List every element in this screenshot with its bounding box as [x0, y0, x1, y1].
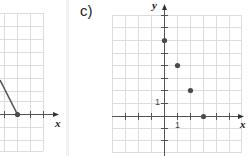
right-x-axis-label: x: [240, 118, 246, 130]
left-graph-panel: x: [0, 0, 66, 156]
left-point: [15, 112, 20, 117]
point-1-4: [175, 63, 180, 68]
left-x-axis-label: x: [55, 117, 61, 129]
left-grid: [0, 13, 44, 152]
right-grid: [112, 15, 242, 153]
right-graph-panel: c): [69, 0, 248, 156]
right-x-axis: [112, 113, 240, 120]
point-2-2: [188, 88, 193, 93]
x-tick-label-1: 1: [175, 120, 180, 130]
point-0-6: [162, 38, 167, 43]
right-y-axis-label: y: [152, 0, 157, 11]
right-y-axis-arrow: [162, 4, 167, 10]
right-graph-svg: [69, 0, 248, 156]
left-x-axis: [0, 111, 59, 118]
y-tick-label-1: 1: [155, 97, 160, 107]
left-graph-svg: [0, 0, 66, 156]
left-line-segment: [0, 80, 18, 115]
right-y-axis: [161, 8, 168, 156]
point-3-0: [201, 114, 206, 119]
